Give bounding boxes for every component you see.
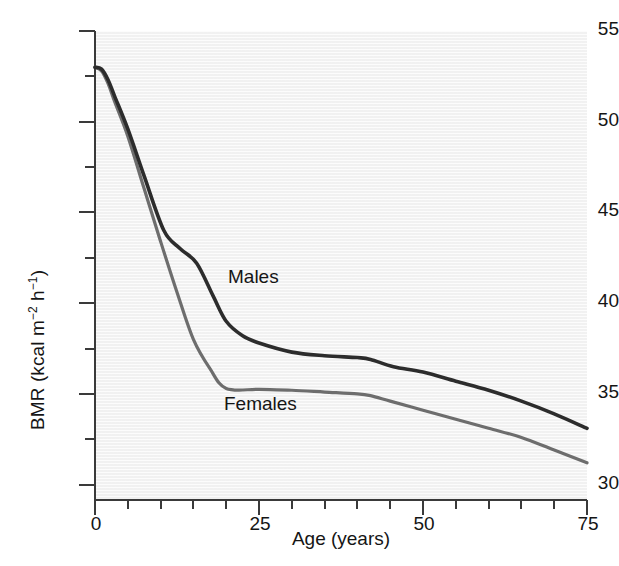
series-curves: [0, 0, 619, 566]
series-label-females: Females: [224, 393, 297, 415]
females-curve: [95, 67, 587, 463]
bmr-age-line-chart: BMR (kcal m−2 h−1) 303540455055 0255075 …: [0, 0, 619, 566]
series-label-males: Males: [228, 266, 279, 288]
x-axis-label: Age (years): [95, 528, 587, 550]
males-curve: [95, 67, 587, 428]
